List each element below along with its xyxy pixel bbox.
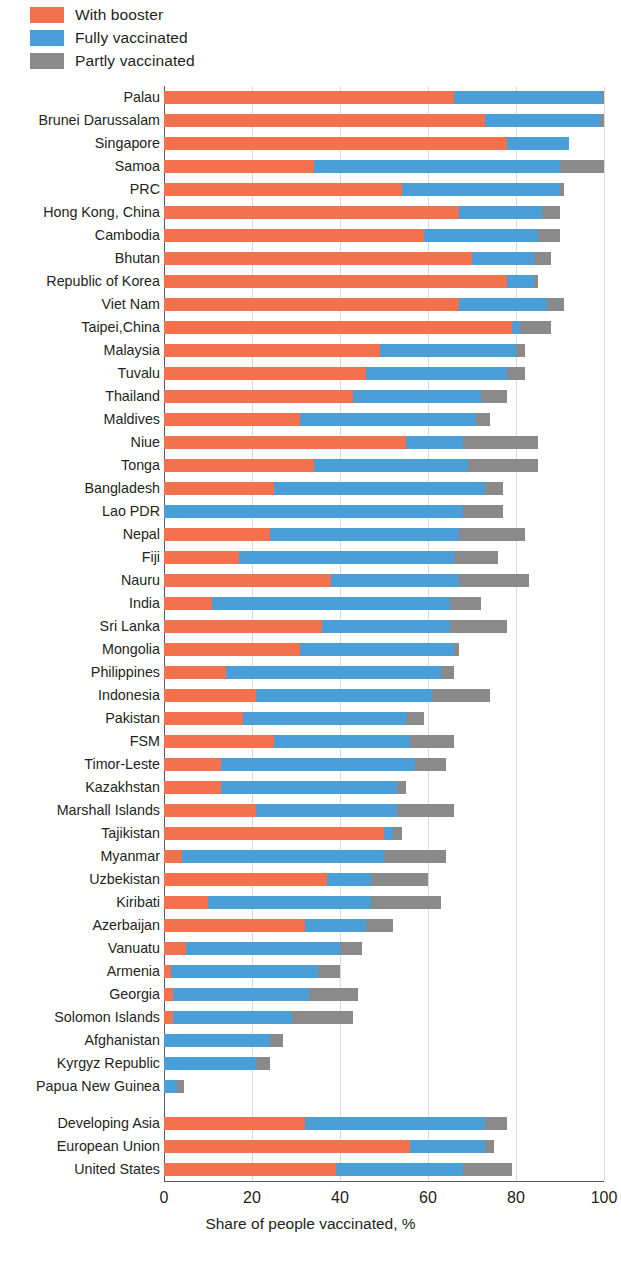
category-label: Niue: [0, 435, 160, 449]
bar-segment: [410, 1140, 485, 1153]
bar-segment: [173, 988, 309, 1001]
bar-segment: [164, 827, 384, 840]
bar-segment: [485, 482, 503, 495]
bar-segment: [164, 781, 221, 794]
bar-segment: [164, 1057, 256, 1070]
bar-segment: [353, 390, 481, 403]
legend-item-fully: Fully vaccinated: [30, 29, 195, 47]
bar-segment: [164, 597, 212, 610]
bar-segment: [432, 689, 489, 702]
bar-segment: [164, 1011, 173, 1024]
bar-segment: [366, 919, 392, 932]
bar-segment: [164, 620, 322, 633]
bar-segment: [182, 850, 384, 863]
bar-46: [164, 1163, 512, 1176]
bar-segment: [164, 298, 459, 311]
bar-segment: [454, 551, 498, 564]
bar-segment: [239, 551, 455, 564]
bar-18: [164, 505, 503, 518]
bar-41: [164, 1034, 283, 1047]
bar-segment: [164, 919, 305, 932]
bar-segment: [485, 1140, 494, 1153]
chart-area: PalauBrunei DarussalamSingaporeSamoaPRCH…: [0, 86, 621, 1206]
bar-22: [164, 597, 481, 610]
bar-44: [164, 1117, 507, 1130]
bar-28: [164, 735, 454, 748]
bar-13: [164, 390, 507, 403]
category-label: Tuvalu: [0, 366, 160, 380]
bar-segment: [485, 114, 599, 127]
bar-segment: [314, 160, 560, 173]
bar-segment: [507, 367, 525, 380]
bar-segment: [305, 919, 367, 932]
bar-segment: [454, 643, 458, 656]
bar-segment: [173, 1011, 292, 1024]
category-label: Kazakhstan: [0, 780, 160, 794]
bar-segment: [300, 413, 476, 426]
x-axis-title: Share of people vaccinated, %: [0, 1215, 621, 1233]
bar-segment: [305, 1117, 485, 1130]
bar-segment: [164, 1034, 270, 1047]
bar-9: [164, 298, 564, 311]
bar-segment: [441, 666, 454, 679]
category-label: Bangladesh: [0, 481, 160, 495]
category-label: Kiribati: [0, 895, 160, 909]
bar-segment: [164, 1117, 305, 1130]
category-label: Palau: [0, 90, 160, 104]
bar-segment: [384, 827, 393, 840]
bar-segment: [164, 459, 314, 472]
bar-segment: [274, 482, 485, 495]
x-axis-ticks: 020406080100: [164, 1187, 604, 1211]
category-label: Afghanistan: [0, 1033, 160, 1047]
bar-segment: [516, 344, 525, 357]
bar-segment: [507, 275, 533, 288]
category-label: Myanmar: [0, 849, 160, 863]
category-label: Singapore: [0, 136, 160, 150]
bar-segment: [270, 528, 459, 541]
bar-segment: [547, 298, 565, 311]
bar-segment: [397, 781, 406, 794]
bar-segment: [371, 896, 441, 909]
bar-31: [164, 804, 454, 817]
category-label: Malaysia: [0, 343, 160, 357]
bar-38: [164, 965, 340, 978]
legend-swatch-booster: [30, 7, 64, 23]
x-tick-label-80: 80: [507, 1189, 525, 1207]
bar-segment: [164, 114, 485, 127]
x-tick-label-40: 40: [331, 1189, 349, 1207]
bar-segment: [415, 758, 446, 771]
bar-36: [164, 919, 393, 932]
category-label: Maldives: [0, 412, 160, 426]
bar-2: [164, 137, 569, 150]
bar-segment: [507, 137, 569, 150]
bar-10: [164, 321, 551, 334]
bar-segment: [327, 873, 371, 886]
category-label: United States: [0, 1162, 160, 1176]
category-label: Tonga: [0, 458, 160, 472]
bar-segment: [534, 275, 538, 288]
bar-segment: [459, 298, 547, 311]
bar-segment: [450, 620, 507, 633]
bar-24: [164, 643, 459, 656]
bar-segment: [534, 252, 552, 265]
bar-segment: [538, 229, 560, 242]
bar-segment: [256, 1057, 269, 1070]
category-label: Tajikistan: [0, 826, 160, 840]
bar-30: [164, 781, 406, 794]
bar-segment: [459, 528, 525, 541]
bar-segment: [459, 206, 543, 219]
bar-8: [164, 275, 538, 288]
bar-segment: [274, 735, 410, 748]
category-label: Samoa: [0, 159, 160, 173]
bar-7: [164, 252, 551, 265]
bar-segment: [221, 758, 415, 771]
bar-11: [164, 344, 525, 357]
bar-segment: [410, 735, 454, 748]
category-label: Timor-Leste: [0, 757, 160, 771]
bar-segment: [340, 942, 362, 955]
category-label: Uzbekistan: [0, 872, 160, 886]
bar-12: [164, 367, 525, 380]
category-label: Indonesia: [0, 688, 160, 702]
category-label: Kyrgyz Republic: [0, 1056, 160, 1070]
bar-segment: [164, 896, 208, 909]
